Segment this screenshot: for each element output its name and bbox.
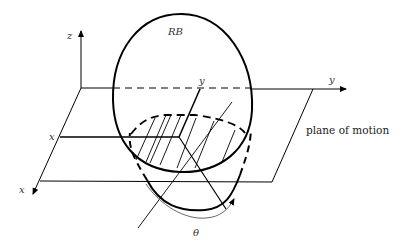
body-x-axis-label: x — [49, 131, 55, 142]
rigid-body-outline — [113, 14, 252, 172]
body-y-axis — [179, 89, 200, 137]
diagram-svg: z y x x y RB θ plane o — [0, 0, 403, 242]
x-axis-label: x — [19, 184, 25, 195]
y-axis-label: y — [328, 74, 335, 85]
rigid-body-label: RB — [167, 26, 183, 37]
x-axis — [33, 88, 81, 194]
rigid-body-plane-motion-diagram: z y x x y RB θ plane o — [0, 0, 403, 242]
angle-theta-label: θ — [193, 227, 199, 238]
plane-of-motion-label: plane of motion — [306, 124, 389, 136]
body-lower-solid — [147, 175, 240, 210]
z-axis-label: z — [66, 30, 73, 41]
angle-reference-line — [179, 137, 226, 209]
plane-of-motion — [33, 88, 346, 194]
body-y-axis-label: y — [198, 75, 205, 86]
